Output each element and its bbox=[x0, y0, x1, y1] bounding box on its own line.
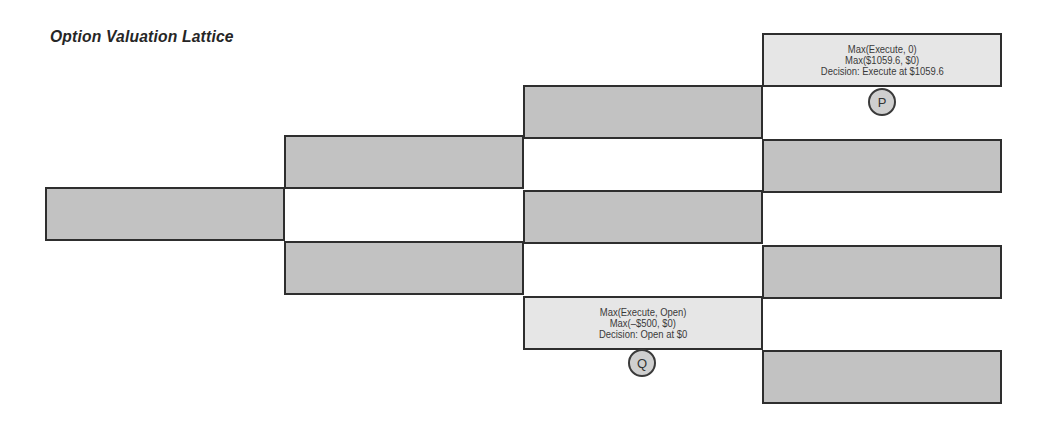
lattice-node-2-0 bbox=[523, 85, 763, 139]
lattice-node-1-1 bbox=[284, 241, 524, 295]
diagram-title: Option Valuation Lattice bbox=[50, 27, 234, 47]
lattice-node-3-0-p: Max(Execute, 0) Max($1059.6, $0) Decisio… bbox=[762, 33, 1002, 87]
marker-p-circle: P bbox=[868, 88, 896, 116]
node-q-line-3: Decision: Open at $0 bbox=[599, 329, 687, 340]
lattice-node-3-3 bbox=[762, 350, 1002, 404]
lattice-node-2-2-q: Max(Execute, Open) Max(–$500, $0) Decisi… bbox=[523, 296, 763, 350]
lattice-node-0-0 bbox=[45, 187, 285, 241]
lattice-node-2-1 bbox=[523, 190, 763, 244]
marker-q-circle: Q bbox=[628, 349, 656, 377]
lattice-node-3-1 bbox=[762, 139, 1002, 193]
node-p-line-3: Decision: Execute at $1059.6 bbox=[821, 66, 944, 77]
lattice-node-1-0 bbox=[284, 135, 524, 189]
lattice-node-3-2 bbox=[762, 245, 1002, 299]
